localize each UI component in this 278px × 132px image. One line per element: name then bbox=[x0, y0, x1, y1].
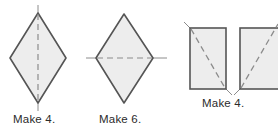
figure-canvas: Make 4. Make 6. Make 4. bbox=[0, 0, 278, 132]
rectangle-pair-unit bbox=[184, 22, 278, 95]
diamond-vertical-unit bbox=[10, 5, 66, 111]
caption-rectangle-pair: Make 4. bbox=[202, 97, 244, 109]
diamond-horizontal-unit bbox=[86, 14, 167, 103]
diamond-horizontal-shape bbox=[96, 14, 153, 103]
rectangle-right-shape bbox=[240, 28, 278, 89]
caption-diamond-vertical: Make 4. bbox=[13, 113, 55, 125]
caption-diamond-horizontal: Make 6. bbox=[99, 113, 141, 125]
